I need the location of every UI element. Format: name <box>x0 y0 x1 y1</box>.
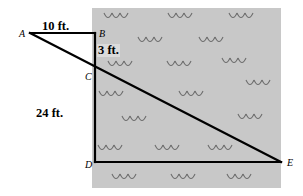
point-label-e: E <box>287 158 293 168</box>
dimension-label-cd: 24 ft. <box>36 107 63 120</box>
point-label-d: D <box>85 160 92 170</box>
point-label-a: A <box>19 29 25 39</box>
dimension-label-bc: 3 ft. <box>97 44 120 57</box>
dimension-label-ab: 10 ft. <box>42 20 69 33</box>
point-label-c: C <box>85 72 92 82</box>
point-label-b: B <box>99 29 105 39</box>
geometry-figure: ABCDE10 ft.3 ft.24 ft. <box>0 0 303 196</box>
